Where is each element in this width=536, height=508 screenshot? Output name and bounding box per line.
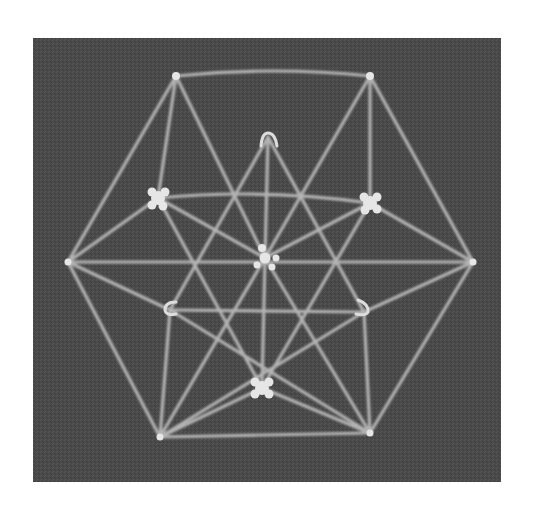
photo-frame xyxy=(33,38,501,482)
connector-right xyxy=(470,259,477,266)
connector-left xyxy=(65,259,72,266)
connector-top-left xyxy=(172,72,180,80)
connector-top-right xyxy=(366,72,374,80)
connector-bottom-left xyxy=(157,434,164,441)
stick-back-lower xyxy=(170,310,364,312)
connector-bottom-right xyxy=(367,430,374,437)
cuboctahedron-model xyxy=(33,38,501,482)
